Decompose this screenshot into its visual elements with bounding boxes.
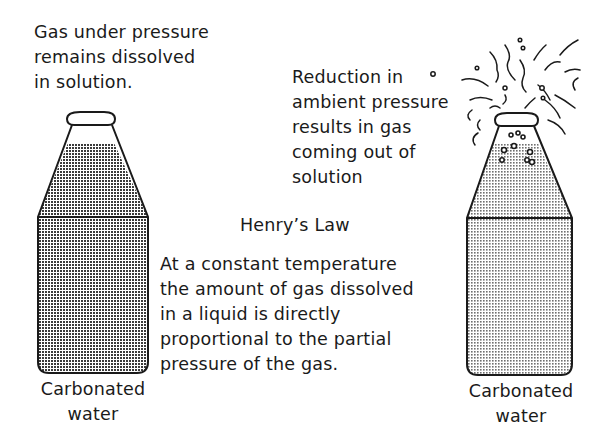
law-statement: At a constant temperature the amount of … (160, 252, 414, 377)
law-line: pressure of the gas. (160, 352, 414, 377)
right-caption-line: coming out of (292, 140, 449, 165)
right-caption-line: Reduction in (292, 65, 449, 90)
right-caption-line: results in gas (292, 115, 449, 140)
right-caption-line: ambient pressure (292, 90, 449, 115)
law-line: in a liquid is directly (160, 302, 414, 327)
law-line: the amount of gas dissolved (160, 277, 414, 302)
right-caption: Reduction in ambient pressure results in… (292, 65, 449, 190)
law-title: Henry’s Law (240, 213, 350, 238)
left-bottle-label-line: Carbonated (28, 377, 158, 402)
left-bottle-label-line: water (28, 402, 158, 427)
left-caption-line: Gas under pressure (34, 20, 209, 45)
right-bottle-label: Carbonated water (456, 379, 586, 429)
right-bottle-cap (495, 113, 538, 126)
left-bottle-cap (67, 112, 115, 125)
left-caption-line: in solution. (34, 70, 209, 95)
escaping-gas-icon (462, 40, 580, 145)
law-line: At a constant temperature (160, 252, 414, 277)
right-bottle (467, 113, 572, 375)
left-bottle (38, 112, 148, 373)
law-line: proportional to the partial (160, 327, 414, 352)
left-bottle-label: Carbonated water (28, 377, 158, 427)
left-caption: Gas under pressure remains dissolved in … (34, 20, 209, 95)
right-bottle-label-line: water (456, 404, 586, 429)
right-bottle-label-line: Carbonated (456, 379, 586, 404)
left-caption-line: remains dissolved (34, 45, 209, 70)
right-caption-line: solution (292, 165, 449, 190)
